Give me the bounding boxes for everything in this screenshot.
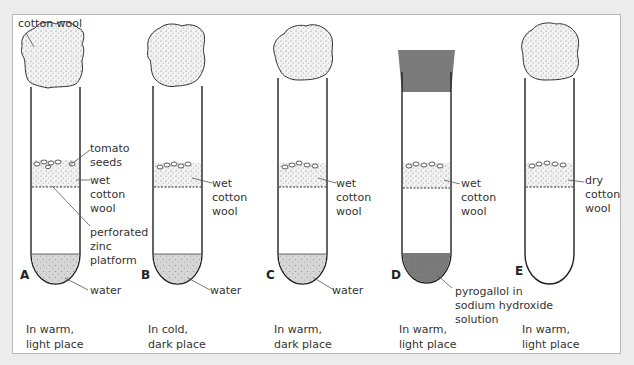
tube-letter-a: A (20, 268, 29, 282)
label-wet-cotton-wool-b: wet cotton wool (212, 177, 247, 219)
water-c (279, 254, 327, 283)
water-b (154, 254, 202, 284)
label-pyrogallol: pyrogallol in sodium hydroxide solution (455, 285, 553, 327)
tube-letter-c: C (266, 268, 275, 282)
cotton-plug-a (22, 21, 84, 88)
condition-d: In warm, light place (399, 322, 456, 352)
condition-b: In cold, dark place (148, 322, 206, 352)
label-perforated-zinc-platform: perforated zinc platform (90, 226, 148, 268)
label-wet-cotton-wool-a: wet cotton wool (90, 174, 125, 216)
condition-e: In warm, light place (522, 322, 579, 352)
label-tomato-seeds: tomato seeds (90, 142, 130, 170)
condition-a: In warm, light place (26, 322, 83, 352)
water-a (32, 254, 80, 284)
rubber-stopper-d (398, 50, 455, 92)
label-water-c: water (332, 284, 363, 298)
tube-letter-e: E (515, 264, 523, 278)
tube-b (148, 24, 205, 284)
pyrogallol-liquid-d (403, 253, 451, 282)
label-wet-cotton-wool-c: wet cotton wool (336, 177, 371, 219)
tube-letter-d: D (391, 268, 401, 282)
tube-letter-b: B (141, 268, 150, 282)
label-dry-cotton-wool: dry cotton wool (585, 174, 620, 216)
tube-c (274, 25, 333, 284)
cotton-plug-c (274, 25, 333, 80)
cotton-plug-e (522, 23, 579, 80)
label-cotton-wool: cotton wool (18, 17, 82, 31)
cotton-plug-b (148, 24, 205, 87)
condition-c: In warm, dark place (274, 322, 332, 352)
tube-a (22, 21, 84, 284)
tube-d (398, 50, 455, 283)
label-wet-cotton-wool-d: wet cotton wool (461, 177, 496, 219)
label-water-a: water (90, 284, 121, 298)
tube-e (522, 23, 579, 284)
label-water-b: water (210, 284, 241, 298)
